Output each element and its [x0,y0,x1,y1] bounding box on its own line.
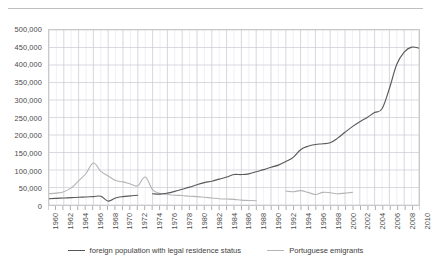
x-tick-label: 1970 [125,213,134,229]
x-tick-label: 1968 [111,213,120,229]
x-tick-label: 1984 [230,213,239,229]
x-tick-label: 1990 [274,213,283,229]
y-tick-label: 300,000 [15,95,42,104]
legend-swatch-portuguese-emigrants [267,250,284,251]
top-divider [8,8,423,9]
y-tick-label: 350,000 [15,78,42,87]
x-tick-label: 1998 [334,213,343,229]
x-tick-label: 1992 [289,213,298,229]
x-tick-label: 2004 [378,213,387,229]
x-tick-label: 1994 [304,213,313,229]
x-tick-label: 2000 [349,213,358,229]
chart-figure: 050,000100,000150,000200,000250,000300,0… [0,0,431,264]
x-tick-label: 1962 [66,213,75,229]
legend-item-portuguese-emigrants: Portuguese emigrants [267,247,363,255]
x-tick-label: 1960 [51,213,60,229]
x-tick-label: 1980 [200,213,209,229]
y-tick-label: 500,000 [15,25,42,34]
x-tick-label: 2010 [423,213,431,229]
x-tick-label: 1978 [185,213,194,229]
y-tick-label: 150,000 [15,148,42,157]
x-tick-label: 1982 [215,213,224,229]
x-axis-ticks [48,206,420,211]
legend-swatch-foreign-population [68,250,85,251]
x-tick-label: 2008 [408,213,417,229]
chart-canvas [49,30,419,205]
x-tick-label: 1972 [140,213,149,229]
x-tick-label: 1986 [244,213,253,229]
x-tick-label: 2006 [393,213,402,229]
x-tick-label: 1988 [259,213,268,229]
x-tick-label: 1974 [155,213,164,229]
x-tick-label: 2002 [363,213,372,229]
x-tick-label: 1964 [81,213,90,229]
legend-label-portuguese-emigrants: Portuguese emigrants [289,247,363,255]
plot-area [48,29,420,206]
x-tick-label: 1976 [170,213,179,229]
y-tick-label: 250,000 [15,113,42,122]
y-tick-label: 450,000 [15,42,42,51]
y-tick-label: 0 [38,202,42,211]
legend-label-foreign-population: foreign population with legal residence … [90,247,242,255]
x-tick-label: 1996 [319,213,328,229]
y-tick-label: 50,000 [19,184,42,193]
y-tick-label: 100,000 [15,166,42,175]
y-tick-label: 400,000 [15,60,42,69]
chart-legend: foreign population with legal residence … [0,247,431,255]
legend-item-foreign-population: foreign population with legal residence … [68,247,242,255]
x-tick-label: 1966 [96,213,105,229]
y-tick-label: 200,000 [15,131,42,140]
y-axis-tick-labels: 050,000100,000150,000200,000250,000300,0… [0,0,46,264]
